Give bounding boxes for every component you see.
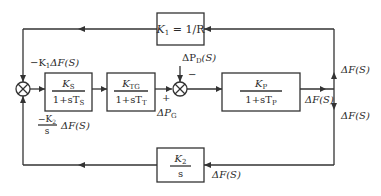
block-diagram: K1 = 1/R −K1ΔF(S) K2 s −K2: [0, 0, 381, 196]
ktg-block: KTG 1+sTT: [107, 73, 155, 111]
k2-block: K2 s: [157, 148, 204, 182]
svg-text:ΔF(S): ΔF(S): [60, 120, 90, 131]
svg-text:−K2: −K2: [38, 114, 56, 125]
k2-feedback-label: −K2 s ΔF(S): [38, 114, 90, 136]
arrow-into-k2: [204, 162, 211, 168]
arrow-k2-left: [78, 162, 85, 168]
arrow-into-sum1-bottom: [20, 96, 26, 103]
summing-junction-1: [16, 82, 30, 96]
k1-feedback-label: −K1ΔF(S): [30, 57, 79, 70]
arrow-into-k1: [204, 26, 211, 32]
right-lower-label: ΔF(S): [340, 110, 370, 121]
arrow-k1-left: [78, 26, 85, 32]
arrow-up-right: [331, 72, 337, 79]
kp-block: KP 1+sTP: [222, 73, 300, 111]
minus-sign: −: [188, 69, 196, 80]
plus-sign: +: [162, 92, 170, 103]
summing-junction-2: [173, 66, 187, 96]
svg-text:s: s: [178, 168, 183, 179]
svg-text:s: s: [45, 126, 50, 136]
k1-block: K1 = 1/R: [156, 13, 206, 45]
ks-block: KS 1+sTS: [45, 73, 92, 111]
right-upper-label: ΔF(S): [340, 64, 370, 75]
svg-text:K1 = 1/R: K1 = 1/R: [156, 23, 206, 37]
bottom-label: ΔF(S): [211, 169, 241, 180]
output-label: ΔF(S): [304, 94, 334, 105]
arrow-into-sum1-top: [20, 75, 26, 82]
load-disturbance-label: ΔPD(S): [182, 52, 216, 65]
arrow-disturbance: [177, 75, 183, 82]
gen-power-label: ΔPG: [156, 107, 177, 120]
